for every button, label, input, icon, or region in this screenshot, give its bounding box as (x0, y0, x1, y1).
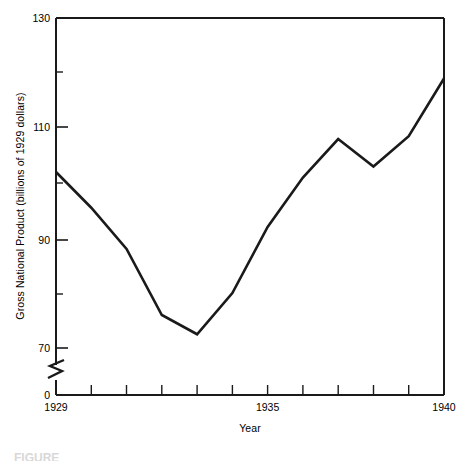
y-tick-label-130: 130 (32, 12, 50, 24)
y-tick-label-90: 90 (38, 234, 50, 246)
y-tick-label-0: 0 (44, 389, 50, 401)
x-tick-label-1940: 1940 (432, 401, 456, 413)
y-axis-break-zigzag (48, 360, 64, 378)
figure-caption-sliver: FIGURE (14, 452, 59, 461)
x-axis-tick-labels: 1929 1935 1940 (44, 401, 456, 413)
gnp-series-line (56, 79, 444, 335)
x-tick-label-1929: 1929 (44, 401, 68, 413)
y-tick-label-70: 70 (38, 342, 50, 354)
y-axis-title: Gross National Product (billions of 1929… (14, 92, 26, 319)
x-axis-ticks (91, 385, 408, 395)
x-axis-title: Year (239, 422, 261, 434)
axis-break-mark (48, 360, 64, 378)
x-tick-label-1935: 1935 (256, 401, 280, 413)
y-axis-tick-labels: 130 110 90 70 0 (32, 12, 50, 401)
y-tick-label-110: 110 (33, 121, 50, 133)
plot-frame (56, 18, 444, 395)
